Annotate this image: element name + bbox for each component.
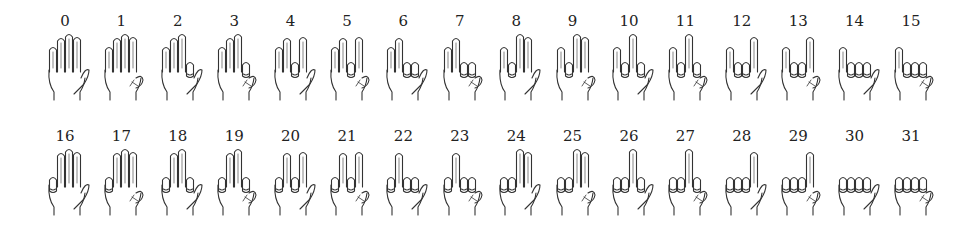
hand-gesture-icon [153, 32, 203, 102]
number-label: 16 [37, 127, 93, 145]
number-label: 7 [432, 12, 488, 30]
number-label: 24 [488, 127, 544, 145]
hand-gesture-icon [773, 147, 823, 217]
number-label: 20 [263, 127, 319, 145]
finger-number-1: 1 [93, 12, 149, 117]
hand-gesture-icon [378, 32, 428, 102]
finger-number-28: 28 [714, 127, 770, 232]
number-label: 4 [263, 12, 319, 30]
hand-gesture-icon [153, 147, 203, 217]
hand-gesture-icon [96, 32, 146, 102]
hand-gesture-icon [660, 32, 710, 102]
number-label: 11 [657, 12, 713, 30]
number-label: 28 [714, 127, 770, 145]
finger-number-6: 6 [375, 12, 431, 117]
number-label: 8 [488, 12, 544, 30]
finger-number-24: 24 [488, 127, 544, 232]
number-label: 27 [657, 127, 713, 145]
finger-number-4: 4 [263, 12, 319, 117]
finger-number-10: 10 [601, 12, 657, 117]
hand-gesture-icon [717, 32, 767, 102]
hand-gesture-icon [322, 32, 372, 102]
hand-gesture-icon [830, 147, 880, 217]
hand-gesture-icon [435, 32, 485, 102]
finger-number-2: 2 [150, 12, 206, 117]
number-label: 19 [206, 127, 262, 145]
hand-gesture-icon [830, 32, 880, 102]
hand-gesture-icon [604, 32, 654, 102]
finger-number-22: 22 [375, 127, 431, 232]
finger-number-18: 18 [150, 127, 206, 232]
hand-gesture-icon [435, 147, 485, 217]
number-label: 9 [545, 12, 601, 30]
finger-number-8: 8 [488, 12, 544, 117]
finger-number-12: 12 [714, 12, 770, 117]
finger-number-14: 14 [827, 12, 883, 117]
number-label: 15 [883, 12, 939, 30]
number-label: 1 [93, 12, 149, 30]
hand-gesture-icon [266, 32, 316, 102]
hand-gesture-icon [491, 32, 541, 102]
hand-gesture-icon [886, 147, 936, 217]
hand-gesture-icon [604, 147, 654, 217]
number-label: 18 [150, 127, 206, 145]
number-label: 25 [545, 127, 601, 145]
finger-number-7: 7 [432, 12, 488, 117]
finger-number-27: 27 [657, 127, 713, 232]
finger-number-17: 17 [93, 127, 149, 232]
number-label: 26 [601, 127, 657, 145]
finger-number-15: 15 [883, 12, 939, 117]
hand-gesture-icon [40, 147, 90, 217]
number-label: 14 [827, 12, 883, 30]
hand-gesture-icon [773, 32, 823, 102]
finger-number-16: 16 [37, 127, 93, 232]
hand-gesture-icon [266, 147, 316, 217]
hand-gesture-icon [40, 32, 90, 102]
number-label: 5 [319, 12, 375, 30]
finger-number-3: 3 [206, 12, 262, 117]
finger-number-11: 11 [657, 12, 713, 117]
hand-gesture-icon [96, 147, 146, 217]
finger-number-20: 20 [263, 127, 319, 232]
finger-number-30: 30 [827, 127, 883, 232]
number-label: 31 [883, 127, 939, 145]
number-label: 10 [601, 12, 657, 30]
finger-number-0: 0 [37, 12, 93, 117]
hand-gesture-icon [209, 147, 259, 217]
number-label: 6 [375, 12, 431, 30]
number-label: 13 [770, 12, 826, 30]
finger-number-23: 23 [432, 127, 488, 232]
finger-number-19: 19 [206, 127, 262, 232]
number-label: 12 [714, 12, 770, 30]
finger-number-5: 5 [319, 12, 375, 117]
number-label: 22 [375, 127, 431, 145]
finger-number-9: 9 [545, 12, 601, 117]
finger-number-31: 31 [883, 127, 939, 232]
hand-gesture-icon [209, 32, 259, 102]
hand-gesture-icon [548, 32, 598, 102]
hand-gesture-icon [717, 147, 767, 217]
hand-gesture-icon [660, 147, 710, 217]
number-label: 0 [37, 12, 93, 30]
finger-number-29: 29 [770, 127, 826, 232]
number-label: 30 [827, 127, 883, 145]
number-label: 3 [206, 12, 262, 30]
hand-gesture-icon [378, 147, 428, 217]
number-label: 21 [319, 127, 375, 145]
hand-gesture-icon [886, 32, 936, 102]
hand-gesture-icon [548, 147, 598, 217]
hand-gesture-icon [491, 147, 541, 217]
hand-gesture-icon [322, 147, 372, 217]
number-label: 29 [770, 127, 826, 145]
finger-number-21: 21 [319, 127, 375, 232]
finger-number-25: 25 [545, 127, 601, 232]
finger-number-26: 26 [601, 127, 657, 232]
number-label: 17 [93, 127, 149, 145]
number-label: 2 [150, 12, 206, 30]
number-label: 23 [432, 127, 488, 145]
finger-number-13: 13 [770, 12, 826, 117]
